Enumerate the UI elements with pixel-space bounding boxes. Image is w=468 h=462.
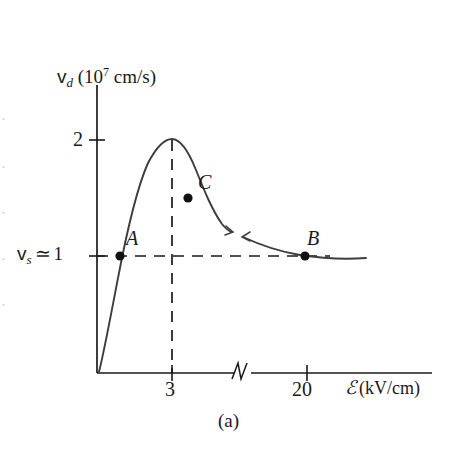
point-label-a: A — [126, 228, 138, 248]
x-axis-break-mark — [232, 363, 247, 379]
vs-symbol: v — [17, 243, 27, 264]
y-axis-symbol: v — [57, 66, 67, 87]
point-label-c: C — [198, 172, 211, 192]
scan-artifact — [2, 304, 5, 306]
vs-relation: ≃ — [32, 243, 54, 264]
vs-reference-label: vs≃1 — [17, 244, 63, 266]
y-axis-unit-rest: cm/s) — [109, 66, 156, 87]
curve-break-arrow-right — [242, 232, 250, 241]
y-tick-label-2: 2 — [73, 129, 83, 149]
figure-caption: (a) — [218, 411, 239, 430]
x-axis-symbol: ℰ — [345, 377, 359, 398]
x-tick-label-20: 20 — [292, 379, 312, 399]
scan-artifact — [2, 166, 5, 168]
x-tick-label-3: 3 — [165, 379, 175, 399]
vs-subscript: s — [27, 252, 32, 267]
scan-artifact — [2, 118, 5, 120]
y-axis-unit-open: (10 — [73, 66, 103, 87]
data-point-b — [300, 251, 309, 260]
figure-container: vd (107 cm/s) 2 vs≃1 3 20 ℰ(kV/cm) A C B… — [0, 0, 468, 462]
vs-value: 1 — [54, 243, 64, 264]
y-axis-title: vd (107 cm/s) — [57, 66, 156, 89]
x-axis-unit: (kV/cm) — [359, 378, 420, 398]
data-point-c — [183, 193, 192, 202]
scan-artifact — [2, 258, 5, 260]
data-point-a — [115, 251, 124, 260]
point-label-b: B — [307, 228, 319, 248]
x-axis-title: ℰ(kV/cm) — [345, 378, 420, 397]
scan-artifact — [2, 212, 5, 214]
